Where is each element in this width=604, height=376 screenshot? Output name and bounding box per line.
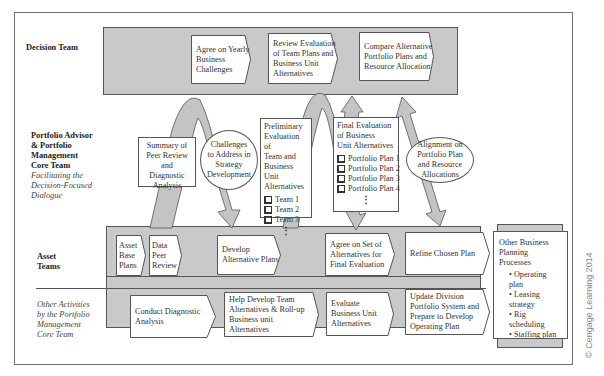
asset-step-develop-alternatives: Develop Alternative Plans xyxy=(217,235,281,275)
other-step-conduct-diagnostic: Conduct Diagnostic Analysis xyxy=(130,295,216,338)
checkbox-icon xyxy=(337,175,345,183)
preliminary-evaluation-box: Preliminary Evaluation of Team and Busin… xyxy=(260,118,312,218)
decision-step-compare-alternatives: Compare Alternative Portfolio Plans and … xyxy=(359,32,434,81)
more-ellipsis-icon: ⋮ xyxy=(264,227,308,235)
summary-peer-review-box: Summary of Peer Review and Diagnostic An… xyxy=(138,137,196,187)
process-item: Leasing strategy xyxy=(509,290,562,310)
other-step-update-division: Update Division Portfolio System and Pre… xyxy=(405,289,490,335)
checkbox-icon xyxy=(337,155,345,163)
portfolio-plan-1-item: Portfolio Plan 1 xyxy=(337,154,395,164)
team-1-item: Team 1 xyxy=(264,195,308,205)
decision-step-review-evaluation: Review Evaluation of Team Plans and Busi… xyxy=(268,33,338,84)
asset-step-base-plans: Asset Base Plans xyxy=(116,235,146,276)
other-step-evaluate: Evaluate Business Unit Alternatives xyxy=(326,292,394,336)
asset-step-refine-plan: Refine Chosen Plan xyxy=(405,232,490,275)
process-item: Operating plan xyxy=(509,270,562,290)
team-3-item: Team 3 xyxy=(264,215,308,225)
checkbox-icon xyxy=(264,196,272,204)
checkbox-icon xyxy=(264,216,272,224)
alignment-ellipse: Alignment on Portfolio Plan and Resource… xyxy=(406,137,474,183)
other-step-help-develop: Help Develop Team Alternatives & Roll-up… xyxy=(224,292,319,337)
other-business-processes-box: Other Business Planning Processes Operat… xyxy=(493,231,568,339)
asset-step-agree-set: Agree on Set of Alternatives for Final E… xyxy=(325,233,395,276)
process-item: Staffing plan xyxy=(509,330,562,340)
portfolio-plan-3-item: Portfolio Plan 3 xyxy=(337,174,395,184)
copyright-notice: © Cengage Learning 2014 xyxy=(584,252,594,358)
more-ellipsis-icon: ⋮ xyxy=(337,196,395,204)
challenges-circle: Challenges to Address in Strategy Develo… xyxy=(200,130,258,190)
portfolio-plan-4-item: Portfolio Plan 4 xyxy=(337,184,395,194)
final-evaluation-box: Final Evaluation of Business Unit Altern… xyxy=(333,117,399,212)
decision-step-agree-challenges: Agree on Yearly Business Challenges xyxy=(191,35,251,84)
team-2-item: Team 2 xyxy=(264,205,308,215)
process-list: Operating plan Leasing strategy Rig sche… xyxy=(509,270,562,340)
checkbox-icon xyxy=(264,206,272,214)
process-item: Rig scheduling xyxy=(509,310,562,330)
portfolio-plan-2-item: Portfolio Plan 2 xyxy=(337,164,395,174)
checkbox-icon xyxy=(337,185,345,193)
checkbox-icon xyxy=(337,165,345,173)
asset-step-data-peer-review: Data Peer Review xyxy=(149,235,182,276)
